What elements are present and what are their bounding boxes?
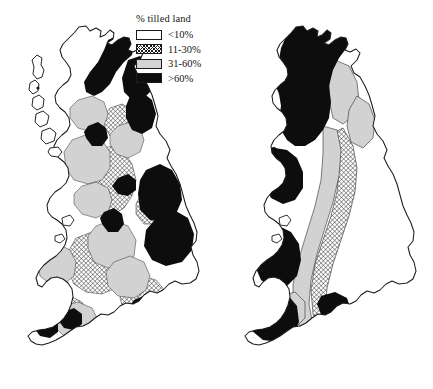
legend-item-31-60: 31-60% [136, 57, 201, 70]
legend-item-under-10: <10% [136, 28, 201, 41]
swatch-black-over60 [136, 73, 162, 83]
tilled-land-map-panel: % tilled land <10% 11-30% 31-60% >60% [0, 0, 216, 389]
swatch-white-under10 [136, 30, 162, 40]
legend-label-31to60: 31-60% [168, 58, 201, 69]
zones-map-svg [217, 0, 433, 389]
legend-label-over60: >60% [168, 73, 193, 84]
zones-choropleth [217, 0, 433, 389]
legend-label-11to30: 11-30% [168, 44, 201, 55]
legend-item-over-60: >60% [136, 72, 201, 85]
swatch-hatch-11to30 [136, 44, 162, 54]
figure-container: % tilled land <10% 11-30% 31-60% >60% [0, 0, 433, 389]
zones-map-panel: Zones 1 2 3 4 [217, 0, 433, 389]
legend-tilled-title: % tilled land [136, 13, 201, 25]
swatch-gray-31to60 [136, 59, 162, 69]
legend-item-11-30: 11-30% [136, 43, 201, 56]
legend-label-under10: <10% [168, 29, 193, 40]
legend-tilled-land: % tilled land <10% 11-30% 31-60% >60% [136, 13, 201, 86]
